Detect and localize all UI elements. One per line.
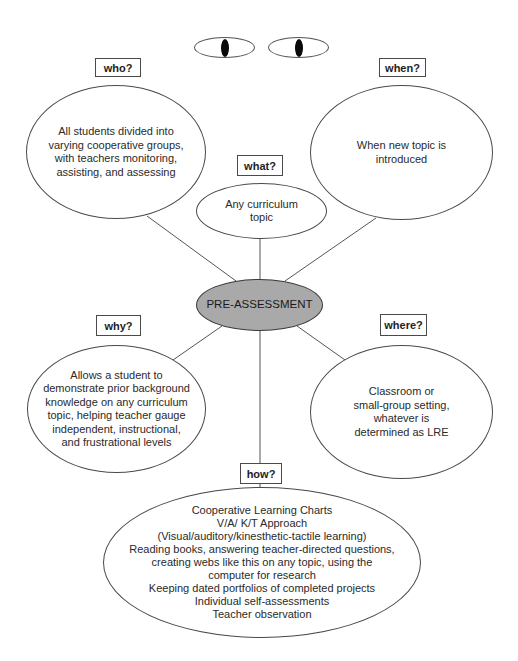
when-line: introduced — [357, 153, 446, 167]
what-label: what? — [237, 155, 283, 176]
how-line: Individual self-assessments — [129, 595, 394, 608]
why-line: independent, instructional, — [43, 423, 190, 437]
what-text: Any curriculum topic — [225, 198, 298, 225]
why-node: Allows a student to demonstrate prior ba… — [27, 345, 206, 473]
where-line: whatever is — [354, 412, 450, 426]
left-eye-icon — [194, 37, 255, 58]
how-node: Cooperative Learning Charts V/A/ K/T App… — [103, 487, 421, 638]
how-line: Reading books, answering teacher-directe… — [129, 543, 394, 556]
who-text: All students divided into varying cooper… — [48, 125, 183, 179]
where-line: determined as LRE — [354, 426, 450, 440]
who-line: varying cooperative groups, — [48, 139, 183, 153]
how-line: computer for research — [129, 569, 394, 582]
pre-assessment-label: PRE-ASSESSMENT — [206, 298, 312, 312]
who-line: All students divided into — [48, 125, 183, 139]
how-line: V/A/ K/T Approach — [129, 517, 394, 530]
concept-web-diagram: who? All students divided into varying c… — [0, 0, 518, 661]
how-line: Teacher observation — [129, 608, 394, 621]
where-line: Classroom or — [354, 385, 450, 399]
why-label: why? — [96, 315, 141, 336]
how-line: Cooperative Learning Charts — [129, 504, 394, 517]
right-pupil — [295, 39, 303, 57]
left-pupil — [221, 39, 229, 57]
how-text: Cooperative Learning Charts V/A/ K/T App… — [129, 504, 394, 621]
why-line: demonstrate prior background — [43, 382, 190, 396]
when-text: When new topic is introduced — [357, 139, 446, 166]
how-label: how? — [240, 463, 282, 484]
connector-where — [297, 326, 345, 360]
when-label: when? — [379, 58, 426, 77]
where-node: Classroom or small-group setting, whatev… — [310, 345, 493, 479]
connector-why — [173, 326, 222, 360]
where-line: small-group setting, — [354, 399, 450, 413]
pre-assessment-node: PRE-ASSESSMENT — [196, 279, 323, 331]
what-node: Any curriculum topic — [196, 183, 327, 239]
where-text: Classroom or small-group setting, whatev… — [354, 385, 450, 439]
when-line: When new topic is — [357, 139, 446, 153]
where-label: where? — [380, 314, 427, 336]
what-line: topic — [225, 211, 298, 225]
why-line: Allows a student to — [43, 369, 190, 383]
why-line: and frustrational levels — [43, 436, 190, 450]
why-line: knowledge on any curriculum — [43, 396, 190, 410]
who-node: All students divided into varying cooper… — [26, 85, 206, 219]
when-node: When new topic is introduced — [310, 85, 493, 220]
who-line: with teachers monitoring, — [48, 152, 183, 166]
why-line: topic, helping teacher gauge — [43, 409, 190, 423]
how-line: creating webs like this on any topic, us… — [129, 556, 394, 569]
how-line: (Visual/auditory/kinesthetic-tactile lea… — [129, 530, 394, 543]
right-eye-icon — [268, 37, 329, 58]
what-line: Any curriculum — [225, 198, 298, 212]
who-line: assisting, and assessing — [48, 166, 183, 180]
how-line: Keeping dated portfolios of completed pr… — [129, 582, 394, 595]
why-text: Allows a student to demonstrate prior ba… — [43, 369, 190, 450]
who-label: who? — [95, 58, 141, 77]
